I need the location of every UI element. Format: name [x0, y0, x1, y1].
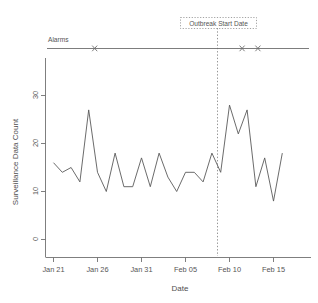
- y-tick-label-30: 30: [31, 91, 40, 99]
- x-tick-label-4: Feb 10: [218, 265, 241, 274]
- x-tick-label-0: Jan 21: [42, 265, 64, 274]
- y-tick-label-20: 20: [31, 139, 40, 147]
- chart-canvas: 0 10 20 30 Surveillance Data Count Jan 2…: [0, 0, 318, 303]
- x-tick-label-5: Feb 15: [262, 265, 285, 274]
- y-axis-ticks: [41, 96, 46, 240]
- x-axis-ticks: [54, 258, 274, 263]
- x-tick-label-1: Jan 26: [86, 265, 108, 274]
- x-tick-label-2: Jan 31: [130, 265, 152, 274]
- y-tick-label-10: 10: [31, 187, 40, 195]
- surveillance-series-line: [54, 105, 283, 201]
- y-tick-label-0: 0: [31, 237, 40, 241]
- y-axis-title: Surveillance Data Count: [11, 118, 20, 205]
- x-tick-label-3: Feb 05: [174, 265, 197, 274]
- x-axis-title: Date: [172, 284, 189, 293]
- outbreak-start-label: Outbreak Start Date: [189, 20, 248, 27]
- alarms-label: Alarms: [48, 36, 69, 43]
- surveillance-chart: 0 10 20 30 Surveillance Data Count Jan 2…: [0, 0, 318, 303]
